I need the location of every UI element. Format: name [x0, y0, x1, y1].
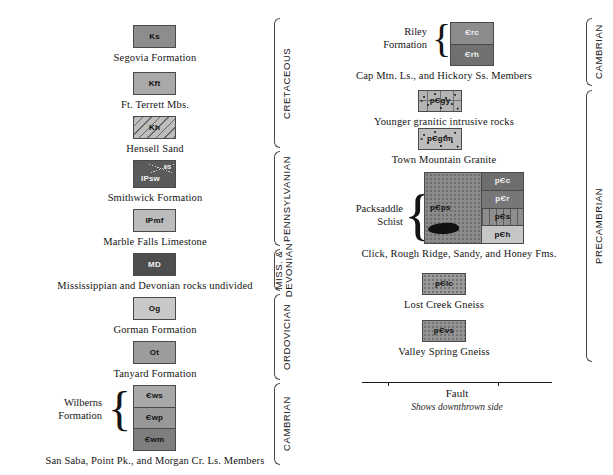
swatch-symbol-wilberns-ws: Єws — [146, 392, 163, 400]
swatch-packsaddle-s[interactable]: pЄs — [482, 209, 523, 227]
caption-wilberns: San Saba, Point Pk., and Morgan Cr. Ls. … — [46, 455, 265, 466]
era-label-ordovician: ORDOVICIAN — [282, 294, 292, 380]
swatch-block-packsaddle[interactable]: pЄps pЄc pЄr pЄs pЄh — [424, 172, 524, 244]
swatch-valley-spring-gneiss[interactable]: pЄvs — [422, 320, 466, 342]
swatch-symbol-younger-granite: pЄgy — [430, 97, 451, 105]
swatch-segovia[interactable]: Ks — [133, 25, 176, 48]
fault-tick-left — [388, 382, 389, 386]
caption-ft-terrett: Ft. Terrett Mbs. — [121, 99, 189, 110]
packsaddle-marker-blob — [428, 222, 460, 234]
caption-tanyard: Tanyard Formation — [113, 368, 196, 379]
swatch-symbol-tanyard: Ot — [150, 349, 159, 357]
swatch-packsaddle-r[interactable]: pЄr — [482, 191, 523, 209]
swatch-packsaddle-ps[interactable]: pЄps — [425, 173, 482, 243]
caption-town-mountain-granite: Town Mountain Granite — [392, 154, 496, 165]
swatch-ft-terrett[interactable]: Kft — [133, 72, 176, 95]
caption-smithwick: Smithwick Formation — [108, 192, 203, 203]
swatch-wilberns-wm[interactable]: Єwm — [134, 429, 175, 450]
group-label-riley: Riley Formation — [355, 25, 427, 51]
swatch-symbol-wilberns-wm: Єwm — [145, 436, 165, 444]
era-label-pennsylvanian: PENNSYLVANIAN — [282, 151, 292, 246]
era-label-precambrian: PRECAMBRIAN — [594, 90, 604, 362]
swatch-riley-rc[interactable]: Єrc — [451, 23, 493, 45]
swatch-symbol-riley-rc: Єrc — [465, 29, 479, 37]
caption-segovia: Segovia Formation — [114, 52, 197, 63]
era-label-cretaceous: CRETACEOUS — [282, 18, 292, 148]
group-label-wilberns: Wilberns Formation — [30, 396, 102, 422]
caption-valley-spring-gneiss: Valley Spring Gneiss — [398, 346, 490, 357]
swatch-subsymbol-smithwick-ss: ss — [164, 163, 171, 170]
group-label-wilberns-line2: Formation — [30, 409, 102, 422]
era-bracket-ordovician — [274, 294, 280, 380]
swatch-hensell[interactable]: Kh — [133, 116, 176, 139]
swatch-symbol-miss-dev: MD — [148, 261, 161, 269]
swatch-symbol-marble-falls: IPmf — [145, 217, 163, 225]
swatch-packsaddle-c[interactable]: pЄc — [482, 173, 523, 191]
swatch-symbol-smithwick: IPsw — [141, 175, 160, 183]
era-label-cambrian-right: CAMBRIAN — [594, 18, 604, 86]
swatch-symbol-packsaddle-s: pЄs — [495, 213, 511, 221]
swatch-symbol-ft-terrett: Kft — [149, 80, 161, 88]
era-bracket-pennsylvanian — [274, 151, 280, 246]
group-label-riley-line2: Formation — [355, 38, 427, 51]
swatch-symbol-wilberns-wp: Єwp — [146, 414, 163, 422]
group-label-packsaddle-line2: Schist — [325, 215, 403, 228]
swatch-gorman[interactable]: Og — [133, 297, 176, 320]
swatch-riley-rh[interactable]: Єrh — [451, 45, 493, 66]
swatch-symbol-town-mountain-granite: pЄgtm — [427, 135, 453, 143]
fault-note: Shows downthrown side — [411, 402, 503, 412]
swatch-symbol-valley-spring-gneiss: pЄvs — [434, 327, 454, 335]
swatch-wilberns-ws[interactable]: Єws — [134, 386, 175, 408]
brace-wilberns: { — [108, 385, 131, 433]
caption-gorman: Gorman Formation — [113, 324, 196, 335]
swatch-symbol-packsaddle-h: pЄh — [494, 231, 510, 239]
swatch-smithwick[interactable]: ss IPsw — [133, 160, 176, 188]
group-label-wilberns-line1: Wilberns — [30, 396, 102, 409]
swatch-symbol-segovia: Ks — [149, 33, 160, 41]
group-label-packsaddle-line1: Packsaddle — [325, 202, 403, 215]
swatch-symbol-gorman: Og — [149, 305, 161, 313]
fault-tick-right — [498, 382, 499, 386]
legend-root: Ks Segovia Formation Kft Ft. Terrett Mbs… — [0, 0, 613, 475]
group-label-riley-line1: Riley — [355, 25, 427, 38]
caption-riley: Cap Mtn. Ls., and Hickory Ss. Members — [356, 70, 532, 81]
group-label-packsaddle: Packsaddle Schist — [325, 202, 403, 228]
swatch-packsaddle-h[interactable]: pЄh — [482, 226, 523, 243]
brace-riley: { — [432, 19, 451, 59]
caption-miss-dev: Mississippian and Devonian rocks undivid… — [57, 280, 252, 291]
swatch-symbol-riley-rh: Єrh — [465, 51, 479, 59]
swatch-lost-creek-gneiss[interactable]: pЄlc — [422, 273, 466, 295]
swatch-marble-falls[interactable]: IPmf — [133, 209, 176, 232]
swatch-miss-dev[interactable]: MD — [133, 253, 176, 276]
swatch-town-mountain-granite[interactable]: pЄgtm — [418, 128, 462, 150]
swatch-symbol-packsaddle-c: pЄc — [495, 177, 511, 185]
fault-line — [362, 382, 552, 383]
caption-packsaddle: Click, Rough Ridge, Sandy, and Honey Fms… — [361, 248, 556, 259]
swatch-wilberns-wp[interactable]: Єwp — [134, 408, 175, 430]
era-bracket-cretaceous — [274, 18, 280, 148]
era-bracket-precambrian — [586, 90, 592, 362]
fault-title: Fault — [446, 387, 469, 399]
swatch-stack-riley[interactable]: Єrc Єrh — [450, 22, 494, 66]
swatch-tanyard[interactable]: Ot — [133, 341, 176, 364]
swatch-symbol-packsaddle-r: pЄr — [495, 195, 509, 203]
swatch-younger-granite[interactable]: pЄgy — [418, 90, 462, 112]
era-label-miss-devonian: MISS. & DEVONIAN — [274, 242, 298, 298]
era-bracket-cambrian-left — [274, 383, 280, 465]
era-bracket-cambrian-right — [586, 18, 592, 86]
caption-lost-creek-gneiss: Lost Creek Gneiss — [404, 299, 484, 310]
caption-younger-granite: Younger granitic intrusive rocks — [374, 116, 514, 127]
era-label-cambrian-left: CAMBRIAN — [282, 383, 292, 465]
caption-marble-falls: Marble Falls Limestone — [103, 236, 207, 247]
caption-hensell: Hensell Sand — [126, 143, 184, 154]
swatch-symbol-hensell: Kh — [149, 124, 160, 132]
swatch-stack-wilberns[interactable]: Єws Єwp Єwm — [133, 385, 176, 451]
swatch-symbol-lost-creek-gneiss: pЄlc — [435, 280, 453, 288]
swatch-symbol-packsaddle-ps: pЄps — [430, 204, 451, 212]
